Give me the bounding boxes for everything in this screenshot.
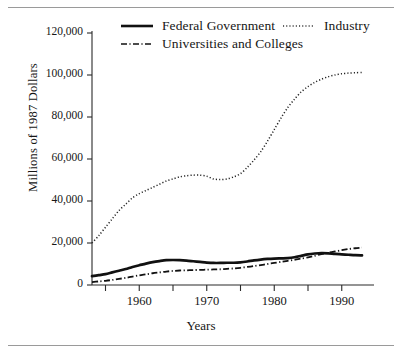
y-tick-label: 80,000: [21, 109, 83, 121]
y-tick-label: 60,000: [21, 151, 83, 163]
y-tick-label: 40,000: [21, 193, 83, 205]
series-layer: [92, 72, 362, 282]
y-tick-label: 0: [21, 277, 83, 289]
x-tick-label: 1980: [249, 294, 299, 309]
series-line-federal-government: [92, 253, 362, 276]
x-tick-label: 1990: [317, 294, 367, 309]
y-tick-label: 100,000: [21, 67, 83, 79]
x-tick-label: 1970: [182, 294, 232, 309]
series-line-industry: [92, 72, 362, 243]
figure-container: Federal Government Industry Universities…: [0, 0, 402, 355]
y-tick-label: 120,000: [21, 25, 83, 37]
y-tick-label: 20,000: [21, 235, 83, 247]
x-tick-label: 1960: [114, 294, 164, 309]
